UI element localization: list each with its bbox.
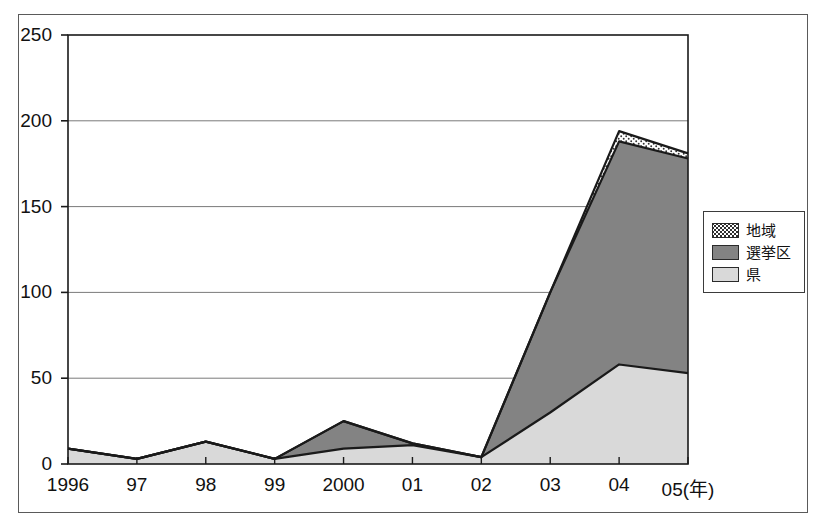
- ken-swatch-icon: [712, 267, 739, 282]
- y-tick-label: 0: [0, 453, 52, 475]
- chart-figure: 050100150200250 199697989920000102030405…: [0, 0, 828, 523]
- legend-item-chiiki: 地域: [712, 219, 798, 241]
- x-tick-label: 05(年): [628, 474, 748, 501]
- legend-label-chiiki: 地域: [746, 223, 776, 238]
- y-axis-tick-marks: [61, 35, 68, 464]
- y-tick-label: 100: [0, 281, 52, 303]
- y-tick-label: 200: [0, 110, 52, 132]
- legend-label-senkyoku: 選挙区: [746, 245, 791, 260]
- senkyoku-swatch-icon: [712, 245, 739, 260]
- y-tick-label: 250: [0, 24, 52, 46]
- legend-item-ken: 県: [712, 263, 798, 285]
- legend-item-senkyoku: 選挙区: [712, 241, 798, 263]
- chart-legend: 地域 選挙区 県: [703, 211, 805, 293]
- y-tick-label: 150: [0, 196, 52, 218]
- chiiki-swatch-icon: [712, 223, 739, 238]
- y-tick-label: 50: [0, 367, 52, 389]
- legend-label-ken: 県: [746, 267, 761, 282]
